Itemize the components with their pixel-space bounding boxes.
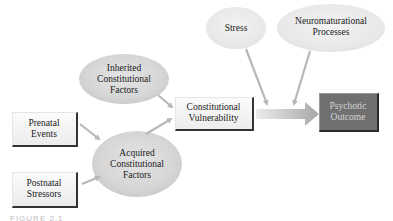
outcome-line1: Psychotic <box>330 101 367 112</box>
postnatal-stressors-label: Postnatal Stressors <box>12 172 76 206</box>
stress-line1: Stress <box>225 23 248 34</box>
vulnerability-line1: Constitutional <box>187 102 241 113</box>
vulnerability-line2: Vulnerability <box>188 113 238 124</box>
neuromaturational-label: Neuromaturational Processes <box>281 13 381 41</box>
acquired-factors-label: Acquired Constitutional Factors <box>97 143 177 185</box>
inherited-factors-label: Inherited Constitutional Factors <box>84 58 164 100</box>
arrow-stress-to-main <box>246 49 267 104</box>
arrow-vulnerability-to-outcome <box>256 102 319 126</box>
prenatal-events-label: Prenatal Events <box>12 112 76 145</box>
acquired-line3: Factors <box>123 170 151 181</box>
figure-caption: FIGURE 2.1 <box>10 214 64 221</box>
neuro-line2: Processes <box>313 27 350 38</box>
constitutional-vulnerability-label: Constitutional Vulnerability <box>175 97 252 129</box>
acquired-line1: Acquired <box>119 148 154 159</box>
arrow-prenatal-to-acquired <box>80 124 99 139</box>
outcome-line2: Outcome <box>331 112 366 123</box>
postnatal-line2: Stressors <box>27 189 61 200</box>
arrow-acquired-to-vulnerability <box>146 119 171 134</box>
inherited-line1: Inherited <box>107 63 141 74</box>
acquired-line2: Constitutional <box>110 159 164 170</box>
postnatal-line1: Postnatal <box>27 178 62 189</box>
psychotic-outcome-label: Psychotic Outcome <box>319 93 377 130</box>
prenatal-line2: Events <box>31 129 57 140</box>
neuro-line1: Neuromaturational <box>295 16 367 27</box>
arrow-neuro-to-main <box>294 51 310 104</box>
inherited-line2: Constitutional <box>97 74 151 85</box>
inherited-line3: Factors <box>110 85 138 96</box>
prenatal-line1: Prenatal <box>28 118 59 129</box>
stress-label: Stress <box>206 18 266 38</box>
